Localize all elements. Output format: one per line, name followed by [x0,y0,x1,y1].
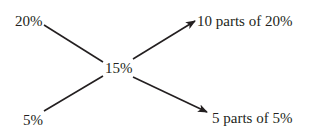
label-10-parts-of-20: 10 parts of 20% [197,14,292,29]
line-5-to-15 [44,76,103,111]
label-5-parts-of-5: 5 parts of 5% [212,111,292,126]
label-20-percent: 20% [15,14,43,29]
arrow-15-to-10-parts [133,21,195,59]
label-5-percent: 5% [23,113,43,128]
label-15-percent: 15% [105,61,133,76]
alligation-cross-diagram: 20% 15% 5% 10 parts of 20% 5 parts of 5% [0,0,309,135]
line-20-to-15 [44,25,103,62]
arrow-15-to-5-parts [133,77,207,112]
